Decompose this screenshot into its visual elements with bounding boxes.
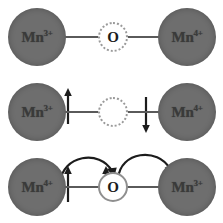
oxygen-atom-top: O: [98, 22, 128, 52]
mn-ion-right-middle-label: Mn4+: [172, 104, 203, 120]
oxygen-atom-middle: [98, 97, 128, 127]
mn-ion-left-top: Mn3+: [8, 8, 66, 66]
mn-ion-right-top-label: Mn4+: [172, 29, 203, 45]
double-exchange-diagram: Mn3+ O Mn4+ Mn3+: [0, 0, 223, 223]
oxygen-atom-top-label: O: [107, 30, 119, 45]
oxygen-atom-bottom: O: [98, 172, 128, 202]
diagram-row-transfer-state: Mn3+ Mn4+: [0, 75, 223, 150]
diagram-row-final-state: Mn4+ O Mn3+: [0, 150, 223, 223]
mn-ion-left-bottom: Mn4+: [8, 158, 66, 216]
mn-ion-right-middle: Mn4+: [158, 83, 216, 141]
mn-ion-right-bottom: Mn3+: [158, 158, 216, 216]
oxygen-atom-bottom-label: O: [107, 180, 119, 195]
diagram-row-initial-state: Mn3+ O Mn4+: [0, 0, 223, 75]
mn-ion-left-middle-label: Mn3+: [22, 104, 53, 120]
mn-ion-left-bottom-label: Mn4+: [22, 179, 53, 195]
mn-ion-left-middle: Mn3+: [8, 83, 66, 141]
mn-ion-right-bottom-label: Mn3+: [172, 179, 203, 195]
mn-ion-left-top-label: Mn3+: [22, 29, 53, 45]
mn-ion-right-top: Mn4+: [158, 8, 216, 66]
